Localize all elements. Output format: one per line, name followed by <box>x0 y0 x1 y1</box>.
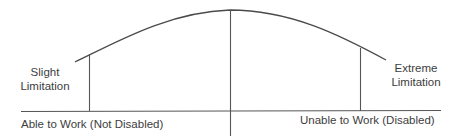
extreme-limitation-label: Extreme Limitation <box>380 61 452 89</box>
disability-continuum-diagram: Slight Limitation Extreme Limitation Abl… <box>0 0 461 140</box>
able-to-work-label: Able to Work (Not Disabled) <box>21 117 163 131</box>
slight-label-line1: Slight <box>10 65 80 79</box>
extreme-label-line1: Extreme <box>380 61 452 75</box>
slight-label-line2: Limitation <box>10 79 80 93</box>
unable-to-work-label: Unable to Work (Disabled) <box>300 113 435 127</box>
slight-limitation-label: Slight Limitation <box>10 65 80 93</box>
extreme-label-line2: Limitation <box>380 75 452 89</box>
